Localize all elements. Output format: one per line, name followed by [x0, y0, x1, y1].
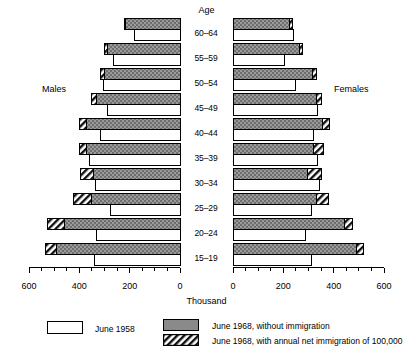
axis-tick-label: 0	[218, 281, 248, 291]
population-pyramid-chart: Age Males Females 60–6455–5950–5445–4940…	[0, 0, 413, 350]
legend-label-june-1958: June 1958	[95, 324, 135, 334]
age-group-label: 45–49	[178, 103, 234, 113]
legend-swatch-1968-no-immigration	[163, 319, 199, 331]
axis-tick-label: 0	[165, 281, 195, 291]
age-group-label: 50–54	[178, 78, 234, 88]
legend-swatch-june-1958	[47, 321, 83, 334]
age-group-label: 55–59	[178, 53, 234, 63]
axis-tick-label: 200	[268, 281, 298, 291]
legend-label-1968-no-immigration: June 1968, without immigration	[212, 321, 330, 331]
age-group-label: 15–19	[178, 253, 234, 263]
legend-swatch-1968-with-immigration	[163, 334, 199, 346]
age-group-label: 40–44	[178, 128, 234, 138]
axis-unit-label: Thousand	[0, 296, 413, 306]
age-group-label: 20–24	[178, 228, 234, 238]
axis-tick-label: 400	[64, 281, 94, 291]
axis-tick-label: 600	[369, 281, 399, 291]
axis-tick-label: 400	[319, 281, 349, 291]
age-group-label: 30–34	[178, 178, 234, 188]
axis-tick-label: 200	[115, 281, 145, 291]
legend-label-1968-with-immigration: June 1968, with annual net immigration o…	[212, 336, 402, 346]
axis-tick-label: 600	[14, 281, 44, 291]
age-group-label: 35–39	[178, 153, 234, 163]
age-group-label: 25–29	[178, 203, 234, 213]
age-group-label: 60–64	[178, 28, 234, 38]
